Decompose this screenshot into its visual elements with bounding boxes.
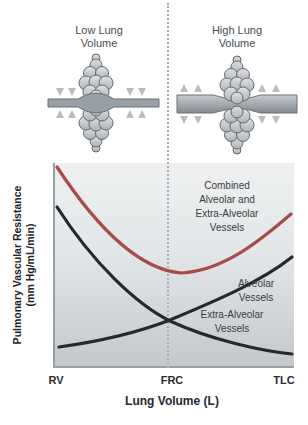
frc-reference-line — [167, 3, 169, 368]
alveolar-curve-label: Alveolar Vessels — [216, 277, 296, 305]
distended-extra-alveolar-vessel-icon — [48, 93, 159, 113]
low-volume-illustration — [48, 54, 159, 152]
outward-expansion-arrows-icon — [180, 84, 280, 124]
extra-alveolar-curve-label-line2: Vessels — [182, 322, 282, 336]
high-volume-illustration — [177, 56, 297, 154]
combined-curve-label-line3: Extra-Alveolar — [177, 207, 277, 221]
low-lung-volume-title-line2: Volume — [53, 37, 145, 50]
x-axis-label: Lung Volume (L) — [110, 394, 234, 408]
combined-curve-label-line1: Combined — [177, 179, 277, 193]
x-tick-frc: FRC — [152, 374, 192, 386]
combined-curve-label: Combined Alveolar and Extra-Alveolar Ves… — [177, 179, 277, 235]
alveolar-curve-label-line1: Alveolar — [216, 277, 296, 291]
pinched-vessel-icon — [177, 95, 297, 113]
low-volume-upper-alveoli-icon — [79, 54, 113, 102]
alveolar-curve-label-line2: Vessels — [216, 291, 296, 305]
y-axis-label: Pulmonary Vascular Resistance (mm Hg/mL/… — [11, 162, 39, 368]
combined-curve-label-line4: Vessels — [177, 221, 277, 235]
y-axis-label-line2: (mm Hg/mL/min) — [24, 162, 37, 368]
extra-alveolar-curve-label: Extra-Alveolar Vessels — [182, 308, 282, 336]
combined-curve-label-line2: Alveolar and — [177, 193, 277, 207]
pulmonary-vascular-resistance-figure: Low Lung Volume High Lung Volume Combine… — [0, 0, 308, 425]
high-lung-volume-title-line1: High Lung — [191, 24, 283, 37]
low-lung-volume-title-line1: Low Lung — [53, 24, 145, 37]
low-lung-volume-title: Low Lung Volume — [53, 24, 145, 50]
inward-compression-arrows-icon — [56, 88, 146, 118]
y-axis-label-line1: Pulmonary Vascular Resistance — [11, 162, 24, 368]
x-tick-tlc: TLC — [264, 374, 304, 386]
high-volume-lower-alveoli-icon — [220, 106, 254, 154]
high-lung-volume-title: High Lung Volume — [191, 24, 283, 50]
high-volume-upper-alveoli-icon — [220, 56, 254, 104]
extra-alveolar-curve-label-line1: Extra-Alveolar — [182, 308, 282, 322]
high-lung-volume-title-line2: Volume — [191, 37, 283, 50]
low-volume-lower-alveoli-icon — [79, 104, 113, 152]
x-tick-rv: RV — [36, 374, 76, 386]
